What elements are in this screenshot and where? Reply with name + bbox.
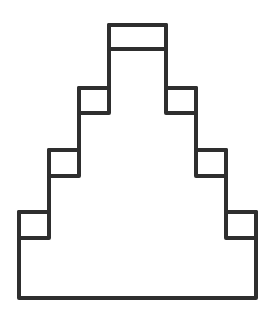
top-cap-box [109, 25, 166, 49]
tier3-left-step-box [49, 150, 79, 176]
pyramid-outline [19, 25, 256, 298]
pyramid-diagram [0, 0, 276, 321]
stepped-pyramid-icon [0, 0, 276, 321]
tier4-right-step-box [226, 212, 256, 238]
tier4-left-step-box [19, 212, 49, 238]
tier2-right-step-box [166, 88, 196, 113]
step-boxes [19, 25, 256, 238]
tier3-right-step-box [196, 150, 226, 176]
tier2-left-step-box [79, 88, 109, 113]
